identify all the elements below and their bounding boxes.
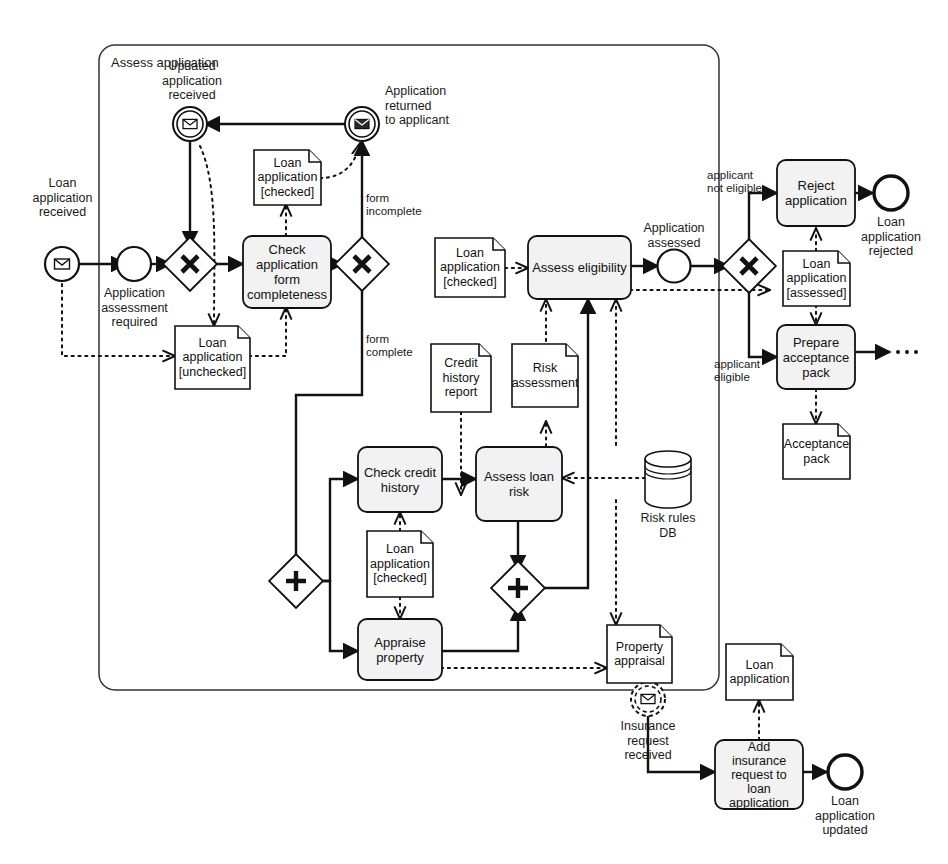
task-appraise-property[interactable]: Appraise property <box>358 619 442 680</box>
task-check-application-form-completeness[interactable]: Check application form completeness <box>243 236 331 308</box>
event-application-assessment-required[interactable] <box>117 247 151 281</box>
data-object-acceptance-pack: Acceptance pack <box>783 424 850 479</box>
event-application-returned-to-applicant[interactable] <box>345 107 379 141</box>
data-object-property-appraisal: Property appraisal <box>607 625 672 683</box>
event-insurance-request-received[interactable] <box>631 682 665 716</box>
data-object-loan-application: Loan application <box>726 644 793 700</box>
data-object-risk-assessment: Risk assessment <box>512 344 578 407</box>
task-prepare-acceptance-pack[interactable]: Prepare acceptance pack <box>777 325 855 389</box>
data-object-loan-application-checked-mid: Loan application [checked] <box>435 238 505 297</box>
task-add-insurance-request-to-loan-application[interactable]: Add insurance request to loan applicatio… <box>715 740 803 809</box>
event-loan-application-updated[interactable] <box>828 755 862 789</box>
gateway-parallel-split[interactable] <box>269 554 323 608</box>
event-updated-application-received[interactable] <box>173 107 207 141</box>
data-object-loan-application-assessed: Loan application [assessed] <box>783 251 850 306</box>
task-check-credit-history[interactable]: Check credit history <box>358 447 442 512</box>
data-object-loan-application-unchecked: Loan application [unchecked] <box>175 326 250 389</box>
gateway-parallel-join[interactable] <box>491 561 545 615</box>
event-loan-application-received[interactable] <box>45 247 79 281</box>
bpmn-diagram-canvas: Assess application Loan application rece… <box>0 0 948 864</box>
task-reject-application[interactable]: Reject application <box>777 160 855 226</box>
data-object-loan-application-checked-lower: Loan application [checked] <box>367 531 433 597</box>
data-store-risk-rules-db <box>645 451 691 508</box>
data-object-credit-history-report: Credit history report <box>431 344 491 412</box>
flow-continuation-dots <box>896 350 918 354</box>
task-assess-loan-risk[interactable]: Assess loan risk <box>476 447 562 521</box>
gateway-eligibility-exclusive[interactable] <box>722 239 776 293</box>
data-object-loan-application-checked-top: Loan application [checked] <box>254 150 321 205</box>
gateway-merge-exclusive[interactable] <box>163 237 217 291</box>
task-assess-eligibility[interactable]: Assess eligibility <box>528 236 631 299</box>
event-application-assessed[interactable] <box>658 250 691 283</box>
event-loan-application-rejected[interactable] <box>874 176 908 210</box>
gateway-form-completeness-exclusive[interactable] <box>335 237 389 291</box>
